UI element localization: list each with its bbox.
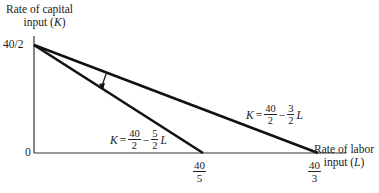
eq-steep-slope: 5 2 <box>151 128 158 151</box>
x-axis-label-prefix: input ( <box>324 156 354 168</box>
x-axis-label: Rate of labor input (L) <box>314 143 374 169</box>
y-axis-label-line1: Rate of capital <box>6 3 73 16</box>
eq-steep-const: 40 2 <box>128 128 141 151</box>
eq-shallow-const: 40 2 <box>264 103 277 126</box>
eq-steep-equals: = <box>120 134 127 146</box>
eq-shallow-slope: 3 2 <box>287 103 294 126</box>
origin-tick: 0 <box>25 146 31 159</box>
eq-shallow-equals: = <box>256 109 263 121</box>
y-tick-top: 40/2 <box>3 38 23 51</box>
eq-steep-op: − <box>143 134 150 146</box>
eq-shallow-lhs: K <box>246 109 254 121</box>
eq-steep-var: L <box>160 134 166 146</box>
y-axis-label: Rate of capital input (K) <box>6 3 73 29</box>
y-axis-label-suffix: ) <box>62 16 66 28</box>
y-axis-var: K <box>54 16 62 28</box>
x-tick-40-5: 40 5 <box>193 159 206 184</box>
x-axis-label-line1: Rate of labor <box>314 143 374 156</box>
equation-shallow: K = 40 2 − 3 2 L <box>246 103 303 126</box>
eq-steep-lhs: K <box>110 134 118 146</box>
eq-shallow-var: L <box>296 109 302 121</box>
equation-steep: K = 40 2 − 5 2 L <box>110 128 167 151</box>
y-axis-label-prefix: input ( <box>24 16 54 28</box>
x-axis-label-suffix: ) <box>360 156 364 168</box>
eq-shallow-op: − <box>279 109 286 121</box>
